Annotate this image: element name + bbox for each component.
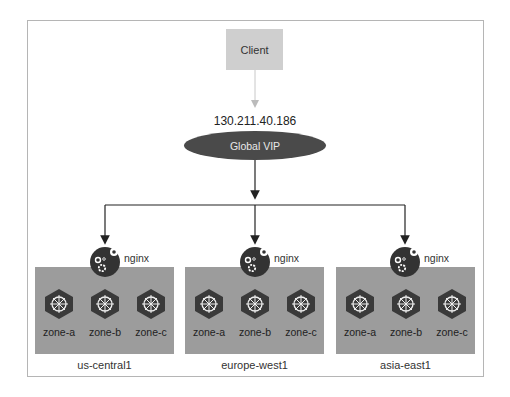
kubernetes-icon bbox=[241, 289, 269, 319]
zone-label: zone-b bbox=[383, 326, 429, 338]
kubernetes-icon bbox=[346, 289, 374, 319]
kubernetes-icon bbox=[45, 289, 73, 319]
nginx-gear-icon bbox=[389, 246, 421, 278]
region-label: europe-west1 bbox=[185, 359, 324, 371]
region-europe-west1: zone-a zone-b zone-c bbox=[185, 267, 324, 354]
zone-label: zone-b bbox=[82, 326, 128, 338]
nginx-label: nginx bbox=[424, 252, 449, 264]
zone-label: zone-a bbox=[186, 326, 232, 338]
zone-node: zone-c bbox=[128, 289, 174, 338]
zone-node: zone-a bbox=[36, 289, 82, 338]
nginx-gear-icon bbox=[239, 246, 271, 278]
vip-label: Global VIP bbox=[230, 140, 280, 152]
nginx-gear-icon bbox=[89, 246, 121, 278]
zone-node: zone-a bbox=[186, 289, 232, 338]
kubernetes-icon bbox=[137, 289, 165, 319]
region-label: us-central1 bbox=[35, 359, 174, 371]
region-label: asia-east1 bbox=[336, 359, 475, 371]
zone-label: zone-c bbox=[278, 326, 324, 338]
nginx-label: nginx bbox=[124, 252, 149, 264]
region-asia-east1: zone-a zone-b zone-c bbox=[336, 267, 475, 354]
kubernetes-icon bbox=[438, 289, 466, 319]
zone-label: zone-a bbox=[337, 326, 383, 338]
client-box: Client bbox=[226, 29, 283, 70]
zone-label: zone-c bbox=[128, 326, 174, 338]
kubernetes-icon bbox=[287, 289, 315, 319]
zone-node: zone-c bbox=[429, 289, 475, 338]
client-label: Client bbox=[240, 44, 268, 56]
kubernetes-icon bbox=[91, 289, 119, 319]
kubernetes-icon bbox=[195, 289, 223, 319]
zone-label: zone-a bbox=[36, 326, 82, 338]
zone-node: zone-b bbox=[383, 289, 429, 338]
nginx-label: nginx bbox=[274, 252, 299, 264]
global-vip-ellipse: Global VIP bbox=[184, 131, 326, 160]
zone-label: zone-c bbox=[429, 326, 475, 338]
zone-node: zone-b bbox=[232, 289, 278, 338]
vip-ip-address: 130.211.40.186 bbox=[195, 114, 315, 128]
zone-node: zone-c bbox=[278, 289, 324, 338]
zone-node: zone-a bbox=[337, 289, 383, 338]
region-us-central1: zone-a zone-b zone-c bbox=[35, 267, 174, 354]
zone-node: zone-b bbox=[82, 289, 128, 338]
kubernetes-icon bbox=[392, 289, 420, 319]
zone-label: zone-b bbox=[232, 326, 278, 338]
